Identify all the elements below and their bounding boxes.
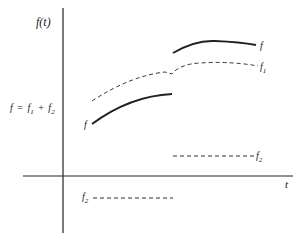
equation-label: f = f1 + f2 (10, 102, 55, 116)
f2-label-left: f2 (82, 191, 89, 205)
f1-label: f1 (260, 61, 266, 75)
x-axis-label: t (285, 178, 289, 190)
f1-curve (92, 62, 258, 101)
f2-label-right: f2 (256, 150, 263, 164)
f-curve-right (173, 41, 256, 53)
diagram-canvas: f(t) t f = f1 + f2 f1 f f f2 f2 (0, 0, 305, 243)
f-curve-left (92, 94, 172, 124)
svg-text:f = f1 +: f = f1 + f2 (10, 102, 55, 116)
f-label-left: f (84, 119, 88, 130)
y-axis-label: f(t) (36, 15, 51, 29)
f-label-right: f (260, 40, 264, 51)
